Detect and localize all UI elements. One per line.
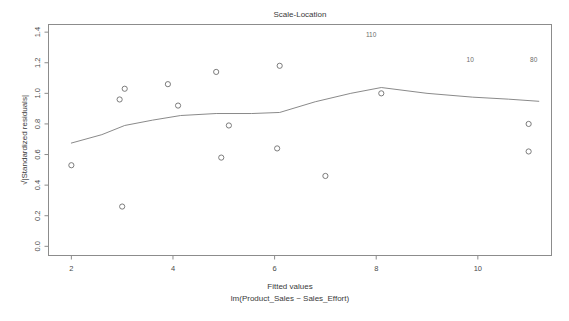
data-point xyxy=(69,163,74,168)
x-tick-label: 2 xyxy=(69,264,73,273)
outlier-point-labels: 1101080 xyxy=(366,31,538,63)
data-point xyxy=(214,69,219,74)
y-axis-title: √|Standardized residuals| xyxy=(20,95,29,185)
point-label: 10 xyxy=(467,56,475,63)
data-point xyxy=(120,204,125,209)
x-axis-ticks: 246810 xyxy=(69,256,482,273)
point-label: 80 xyxy=(530,56,538,63)
data-point xyxy=(165,82,170,87)
scatter-points xyxy=(69,63,531,209)
data-point xyxy=(526,121,531,126)
data-point xyxy=(175,103,180,108)
y-tick-label: 1.4 xyxy=(33,27,42,37)
data-point xyxy=(117,97,122,102)
data-point xyxy=(526,149,531,154)
y-tick-label: 0.6 xyxy=(33,149,42,159)
y-tick-label: 0.8 xyxy=(33,119,42,129)
y-tick-label: 0.2 xyxy=(33,211,42,221)
data-point xyxy=(275,146,280,151)
y-tick-label: 1.2 xyxy=(33,58,42,68)
data-point xyxy=(226,123,231,128)
x-axis-title-model: lm(Product_Sales ~ Sales_Effort) xyxy=(231,294,350,303)
x-tick-label: 10 xyxy=(474,264,482,273)
x-tick-label: 6 xyxy=(273,264,277,273)
x-tick-label: 8 xyxy=(374,264,378,273)
scale-location-plot: 246810 0.00.20.40.60.81.01.21.4 1101080 … xyxy=(0,0,569,321)
plot-screenshot: 246810 0.00.20.40.60.81.01.21.4 1101080 … xyxy=(0,0,569,321)
data-point xyxy=(219,155,224,160)
y-tick-label: 1.0 xyxy=(33,88,42,98)
plot-frame xyxy=(49,25,552,256)
y-axis-ticks: 0.00.20.40.60.81.01.21.4 xyxy=(33,27,49,252)
data-point xyxy=(122,86,127,91)
x-axis-title-primary: Fitted values xyxy=(267,282,312,291)
data-point xyxy=(277,63,282,68)
y-tick-label: 0.4 xyxy=(33,180,42,190)
x-tick-label: 4 xyxy=(171,264,175,273)
y-tick-label: 0.0 xyxy=(33,241,42,251)
point-label: 110 xyxy=(366,31,377,38)
data-point xyxy=(379,91,384,96)
smoother-path xyxy=(71,88,538,144)
loess-smooth-line xyxy=(71,88,538,144)
plot-title: Scale-Location xyxy=(274,10,327,19)
data-point xyxy=(323,173,328,178)
